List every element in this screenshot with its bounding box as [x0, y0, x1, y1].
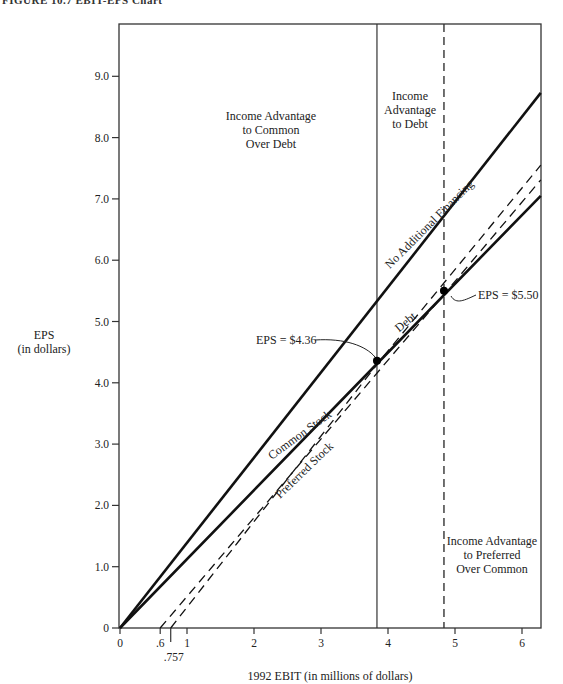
region-label: to Common: [242, 123, 299, 137]
x-tick-label: 6: [519, 637, 525, 649]
region-label: Advantage: [384, 103, 436, 117]
breakeven-dot: [373, 357, 381, 365]
y-tick-label: 3.0: [95, 438, 110, 450]
y-tick-label: 9.0: [95, 70, 110, 82]
series-label: Debt: [392, 309, 419, 335]
x-tick-label: 4: [385, 637, 391, 649]
x-tick-label: 5: [452, 637, 458, 649]
y-tick-label: 1.0: [95, 561, 110, 573]
y-axis-label: EPS: [34, 328, 55, 342]
y-tick-label: 5.0: [95, 316, 110, 328]
ebit-eps-chart: 01.02.03.04.05.06.07.08.09.00.6123456.75…: [0, 0, 563, 684]
x-tick-label: .6: [156, 637, 165, 649]
breakeven-dot: [440, 287, 448, 295]
leader-line: [451, 295, 476, 301]
region-label: Income: [392, 89, 428, 103]
x-tick-label: 3: [318, 637, 324, 649]
x-tick-label: 0: [117, 637, 123, 649]
y-tick-label: 7.0: [95, 193, 110, 205]
x-tick-label: 2: [251, 637, 257, 649]
point-label-4-36: EPS = $4.36: [256, 333, 316, 347]
y-tick-label: 6.0: [95, 254, 110, 266]
region-label: Over Common: [456, 562, 528, 576]
region-label: Over Debt: [246, 137, 297, 151]
series-label: No Additional Financing: [382, 177, 476, 271]
y-tick-label: 2.0: [95, 499, 110, 511]
y-axis-sublabel: (in dollars): [18, 342, 71, 356]
region-label: Income Advantage: [447, 534, 537, 548]
point-label-5-50: EPS = $5.50: [478, 288, 538, 302]
x-axis-label: 1992 EBIT (in millions of dollars): [248, 669, 413, 683]
x-tick-label: 1: [184, 637, 190, 649]
y-tick-label: 8.0: [95, 132, 110, 144]
region-label: to Debt: [392, 117, 428, 131]
region-label: to Preferred: [464, 548, 521, 562]
x-extra-tick-label: .757: [164, 651, 184, 663]
y-tick-label: 0: [103, 622, 109, 634]
y-tick-label: 4.0: [95, 377, 110, 389]
region-label: Income Advantage: [226, 109, 316, 123]
